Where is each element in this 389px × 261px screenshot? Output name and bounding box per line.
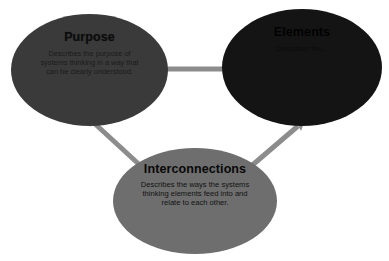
systems-thinking-diagram: Purpose Describes the purpose of systems… bbox=[0, 0, 389, 261]
node-purpose-title: Purpose bbox=[64, 31, 115, 44]
node-interconnections-body: Describes the ways the systems thinking … bbox=[134, 181, 256, 208]
node-interconnections[interactable]: Interconnections Describes the ways the … bbox=[113, 148, 277, 254]
node-elements-body: Describes the... bbox=[250, 45, 354, 54]
node-elements-title: Elements bbox=[274, 26, 330, 39]
node-interconnections-title: Interconnections bbox=[144, 163, 246, 176]
node-elements[interactable]: Elements Describes the... bbox=[222, 9, 382, 126]
node-purpose-body: Describes the purpose of systems thinkin… bbox=[36, 50, 144, 76]
node-purpose[interactable]: Purpose Describes the purpose of systems… bbox=[11, 14, 168, 126]
